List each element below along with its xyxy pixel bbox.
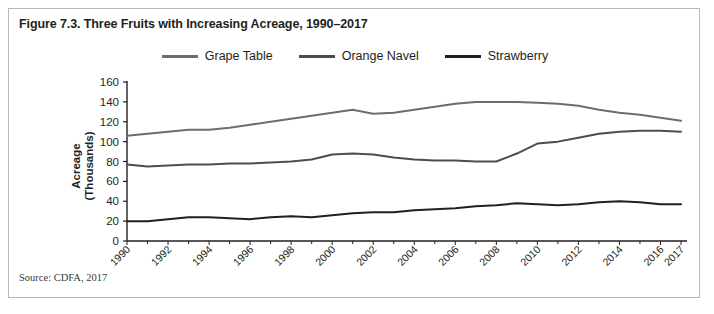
x-tick-label: 2002 xyxy=(354,243,379,268)
x-tick-label: 1998 xyxy=(272,243,297,268)
chart-legend: Grape Table Orange Navel Strawberry xyxy=(9,49,701,63)
legend-swatch-strawberry xyxy=(445,55,481,58)
legend-item-strawberry: Strawberry xyxy=(445,49,548,63)
y-tick-label: 140 xyxy=(100,96,119,108)
legend-label-strawberry: Strawberry xyxy=(488,49,548,63)
source-note: Source: CDFA, 2017 xyxy=(19,272,107,283)
x-tick-label: 2016 xyxy=(641,243,666,268)
x-tick-label: 1994 xyxy=(189,243,214,268)
series-line-grape-table xyxy=(127,102,681,136)
y-tick-label: 160 xyxy=(100,76,119,88)
x-tick-label: 2004 xyxy=(395,243,420,268)
x-tick-label: 2008 xyxy=(477,243,502,268)
series-line-strawberry xyxy=(127,201,681,221)
y-tick-label: 60 xyxy=(106,175,119,187)
plot-area: Acreage (Thousands) 02040608010012014016… xyxy=(9,69,701,299)
x-tick-label: 2000 xyxy=(313,243,338,268)
line-chart-svg: 0204060801001201401601990199219941996199… xyxy=(9,69,701,299)
y-tick-label: 100 xyxy=(100,136,119,148)
figure-title: Figure 7.3. Three Fruits with Increasing… xyxy=(19,17,368,31)
figure-container: Figure 7.3. Three Fruits with Increasing… xyxy=(8,8,700,298)
x-tick-label: 2012 xyxy=(559,243,584,268)
y-tick-label: 0 xyxy=(113,235,119,247)
y-tick-label: 40 xyxy=(106,195,119,207)
legend-item-grape-table: Grape Table xyxy=(162,49,273,63)
y-tick-label: 120 xyxy=(100,116,119,128)
x-tick-label: 2006 xyxy=(436,243,461,268)
x-tick-label: 1992 xyxy=(148,243,173,268)
x-tick-label: 1996 xyxy=(231,243,256,268)
legend-swatch-orange-navel xyxy=(299,55,335,58)
y-tick-label: 20 xyxy=(106,215,119,227)
legend-swatch-grape-table xyxy=(162,55,198,58)
x-tick-label: 2017 xyxy=(661,243,686,268)
x-tick-label: 2010 xyxy=(518,243,543,268)
series-line-orange-navel xyxy=(127,131,681,167)
legend-label-grape-table: Grape Table xyxy=(205,49,273,63)
legend-label-orange-navel: Orange Navel xyxy=(342,49,419,63)
y-tick-label: 80 xyxy=(106,156,119,168)
legend-item-orange-navel: Orange Navel xyxy=(299,49,419,63)
x-tick-label: 1990 xyxy=(107,243,132,268)
x-tick-label: 2014 xyxy=(600,243,625,268)
